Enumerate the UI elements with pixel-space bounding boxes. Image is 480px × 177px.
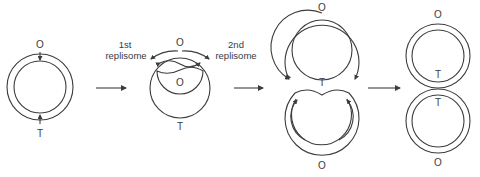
upper-outer-strand-arrow-icon bbox=[285, 25, 359, 79]
stage-4-chromosomes: O T T O bbox=[406, 9, 470, 168]
replisome-2-label-line1: 2nd bbox=[228, 39, 244, 50]
terminus-label: T bbox=[319, 77, 325, 88]
origin-top-label: O bbox=[434, 9, 442, 20]
replisome-2-label-line2: replisome bbox=[215, 50, 256, 61]
replisome-2-arrow-icon bbox=[182, 51, 209, 59]
terminus-bottom-label: T bbox=[435, 97, 441, 108]
stage-2-chromosome: O O T 1st replisome 2nd replisome bbox=[105, 37, 256, 132]
stage-1-chromosome: O T bbox=[7, 39, 73, 139]
replication-diagram: O T O O T 1st replisome 2nd replisome O … bbox=[0, 0, 480, 177]
origin-label: O bbox=[36, 39, 44, 50]
origin-inner-label: O bbox=[176, 77, 184, 88]
inner-strand bbox=[14, 61, 66, 113]
replisome-1-label-line2: replisome bbox=[105, 50, 146, 61]
replisome-1-label-line1: 1st bbox=[119, 39, 132, 50]
terminus-label: T bbox=[177, 121, 183, 132]
terminus-top-label: T bbox=[435, 69, 441, 80]
origin-bottom-label: O bbox=[318, 160, 326, 171]
origin-bottom-label: O bbox=[434, 157, 442, 168]
origin-outer-label: O bbox=[176, 37, 184, 48]
terminus-label: T bbox=[37, 128, 43, 139]
upper-inner-strand bbox=[292, 20, 352, 80]
origin-top-label: O bbox=[318, 2, 326, 13]
stage-3-chromosome: O T O bbox=[271, 2, 359, 171]
replisome-1-arrow-icon bbox=[151, 51, 178, 59]
outer-strand bbox=[150, 58, 210, 118]
outer-strand bbox=[7, 54, 73, 120]
